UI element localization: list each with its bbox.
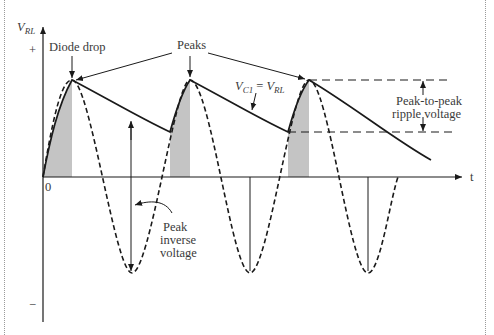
- piv-label-line2: inverse: [160, 233, 197, 247]
- vc1-equals-vrl-label: VC1 = VRL: [235, 79, 285, 95]
- piv-label-line1: Peak: [163, 220, 188, 234]
- diode-drop-label: Diode drop: [49, 40, 106, 54]
- y-minus-label: −: [29, 298, 36, 312]
- ripple-label-line1: Peak-to-peak: [396, 94, 463, 108]
- y-plus-label: +: [29, 43, 36, 57]
- ripple-waveform-diagram: VRL + − 0 t Diode drop Peaks VC1 = VRL P…: [0, 0, 494, 335]
- peaks-label: Peaks: [177, 38, 206, 52]
- piv-curved-arrow: [135, 202, 172, 213]
- x-axis-label: t: [470, 170, 474, 184]
- ripple-label-line2: ripple voltage: [392, 107, 462, 121]
- vc1-arrow: [252, 93, 256, 110]
- conduction-shading: [43, 80, 309, 177]
- y-axis-label: VRL: [17, 20, 35, 36]
- piv-label-line3: voltage: [160, 246, 197, 260]
- dotted-border-right: [485, 0, 486, 335]
- filtered-output-solid: [43, 80, 431, 177]
- peaks-arrows: [76, 53, 305, 80]
- origin-label: 0: [45, 180, 51, 194]
- diagram-frame: VRL + − 0 t Diode drop Peaks VC1 = VRL P…: [0, 0, 494, 335]
- dotted-border-left: [4, 0, 5, 335]
